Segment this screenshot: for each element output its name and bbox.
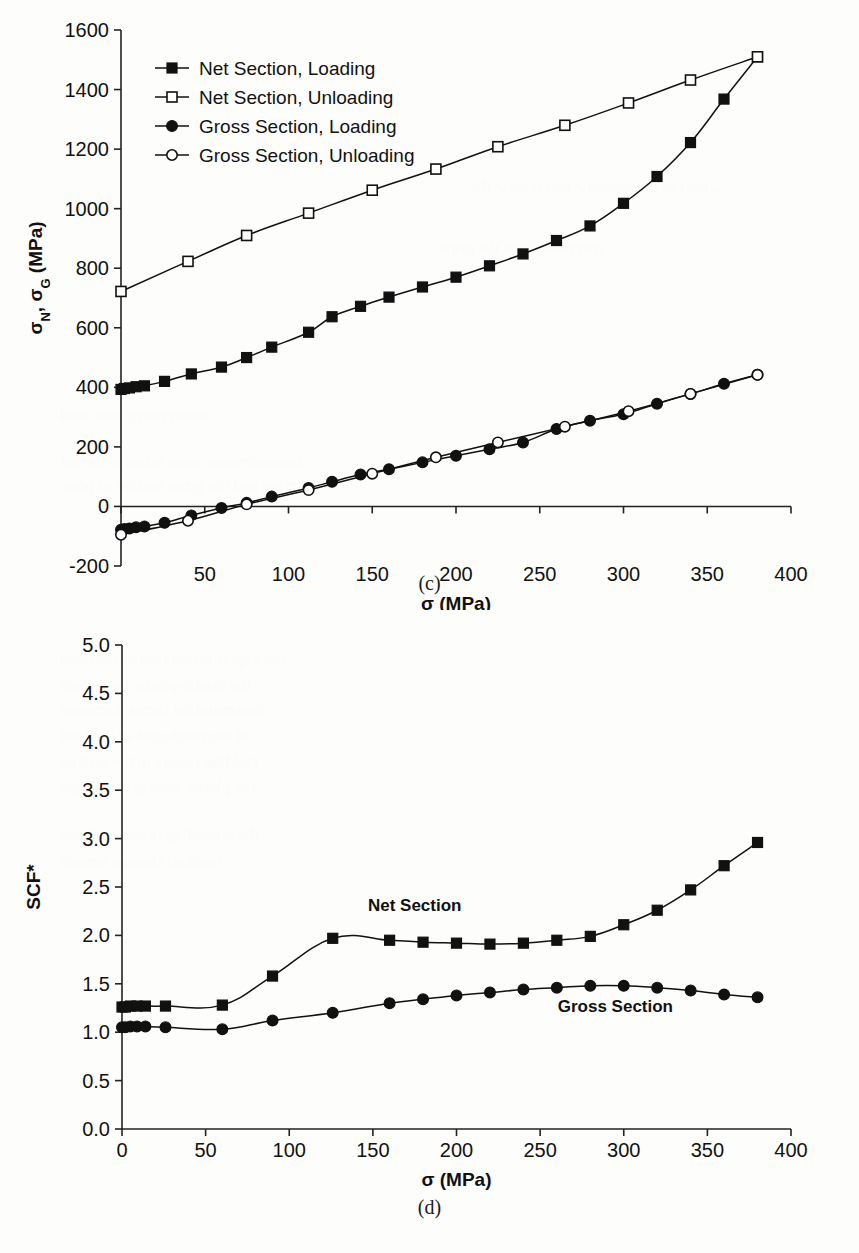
chart-d-data-point <box>160 1022 171 1033</box>
chart-c-data-point <box>303 485 313 495</box>
chart-c-data-point <box>685 389 695 399</box>
chart-c-data-point <box>752 370 762 380</box>
chart-c-data-point <box>518 437 529 448</box>
chart-c-data-point <box>160 376 170 386</box>
chart-c-y-tick-label: 0 <box>98 495 109 517</box>
chart-c-y-tick-label: 1200 <box>65 138 110 160</box>
chart-d-data-point <box>160 1001 170 1011</box>
chart-c-data-point <box>619 198 629 208</box>
chart-d-data-point <box>418 994 429 1005</box>
chart-c-data-point <box>384 292 394 302</box>
chart-d-data-point <box>451 990 462 1001</box>
chart-c-data-point <box>451 272 461 282</box>
chart-c-y-tick-label: 400 <box>76 376 109 398</box>
chart-d-data-point <box>719 989 730 1000</box>
chart-d-data-point <box>452 938 462 948</box>
chart-c-y-tick-label: 1600 <box>65 19 110 41</box>
figure-d-chart: 0.00.51.01.52.02.53.03.54.04.55.00501001… <box>0 600 859 1253</box>
chart-d-x-tick-label: 200 <box>440 1139 473 1161</box>
chart-d-y-axis-title: SCF* <box>23 864 44 910</box>
chart-d-annotations: Net SectionGross Section <box>368 896 673 1016</box>
chart-d-data-point <box>652 982 663 993</box>
chart-d-data-point <box>384 998 395 1009</box>
chart-d-data-point <box>686 885 696 895</box>
chart-c-data-point <box>304 208 314 218</box>
chart-d-y-tick-label: 5.0 <box>82 634 110 656</box>
figure-d-caption: (d) <box>0 1196 859 1219</box>
chart-d-x-axis-title: σ (MPa) <box>422 1169 492 1190</box>
chart-d-y-tick-label: 3.5 <box>82 779 110 801</box>
chart-c-data-point <box>367 468 377 478</box>
chart-d-x-tick-label: 300 <box>607 1139 640 1161</box>
chart-d-data-point <box>328 933 338 943</box>
chart-c-legend-marker <box>167 150 177 160</box>
chart-d-data-point <box>140 1021 151 1032</box>
chart-d-data-point <box>140 1001 150 1011</box>
chart-d-x-tick-label: 350 <box>691 1139 724 1161</box>
chart-d-data-point <box>685 985 696 996</box>
chart-d-y-tick-label: 2.5 <box>82 876 110 898</box>
chart-c-legend-label: Gross Section, Loading <box>199 116 397 137</box>
chart-c-legend-label: Net Section, Unloading <box>199 87 393 108</box>
chart-c-data-point <box>493 437 503 447</box>
chart-c-data-point <box>686 75 696 85</box>
figure-c-caption: (c) <box>0 572 859 595</box>
chart-d-data-point <box>618 980 629 991</box>
chart-c-y-tick-label: 600 <box>76 317 109 339</box>
chart-c-data-point <box>266 491 277 502</box>
chart-d-data-point <box>585 931 595 941</box>
chart-d-data-point <box>552 935 562 945</box>
chart-c-data-point <box>686 138 696 148</box>
chart-c-data-point <box>242 353 252 363</box>
chart-c-y-tick-label: 800 <box>76 257 109 279</box>
chart-c-y-tick-label: 1400 <box>65 79 110 101</box>
chart-c-data-point <box>753 52 763 62</box>
chart-c-y-axis-title: σN, σG (MPa) <box>25 221 53 334</box>
chart-d-y-tick-label: 3.0 <box>82 828 110 850</box>
chart-d-data-point <box>551 982 562 993</box>
chart-c-legend-marker <box>167 63 177 73</box>
chart-c-legend-marker <box>167 92 177 102</box>
chart-c-data-point <box>356 301 366 311</box>
chart-d-y-tick-label: 4.0 <box>82 731 110 753</box>
chart-d-data-point <box>418 937 428 947</box>
chart-c-data-point <box>116 286 126 296</box>
chart-c-data-point <box>217 362 227 372</box>
chart-d-data-point <box>518 938 528 948</box>
chart-d-x-tick-label: 400 <box>774 1139 807 1161</box>
chart-c-legend: Net Section, LoadingNet Section, Unloadi… <box>155 58 414 166</box>
chart-c-legend-label: Gross Section, Unloading <box>199 145 414 166</box>
chart-d-y-tick-label: 4.5 <box>82 682 110 704</box>
chart-c-data-point <box>518 249 528 259</box>
chart-c-axes: -200020040060080010001200140016005010015… <box>65 19 808 585</box>
chart-c-data-point <box>367 185 377 195</box>
chart-d-series-annotation: Net Section <box>368 896 462 915</box>
chart-c-data-point <box>139 381 149 391</box>
chart-c-data-point <box>623 406 633 416</box>
chart-d-x-tick-label: 100 <box>273 1139 306 1161</box>
chart-c-data-point <box>552 236 562 246</box>
chart-d-x-tick-label: 50 <box>195 1139 217 1161</box>
chart-d-y-tick-label: 1.5 <box>82 973 110 995</box>
chart-c-data-point <box>267 342 277 352</box>
chart-c-data-point <box>241 499 251 509</box>
chart-c-data-point <box>304 327 314 337</box>
chart-d-data-point <box>327 1007 338 1018</box>
chart-d-data-point <box>753 837 763 847</box>
chart-c-svg: -200020040060080010001200140016005010015… <box>0 0 859 610</box>
chart-d-data-point <box>485 987 496 998</box>
chart-d-data-point <box>485 939 495 949</box>
chart-d-data-point <box>619 920 629 930</box>
chart-c-data-point <box>493 142 503 152</box>
chart-c-data-point <box>719 94 729 104</box>
chart-d-data-point <box>217 1000 227 1010</box>
chart-c-data-point <box>560 120 570 130</box>
chart-c-axis-titles: σ (MPa)σN, σG (MPa) <box>25 221 491 610</box>
chart-c-data-point <box>560 421 570 431</box>
chart-d-y-tick-label: 2.0 <box>82 924 110 946</box>
chart-d-data-point <box>652 905 662 915</box>
chart-c-data-point <box>431 452 441 462</box>
chart-d-data-point <box>518 984 529 995</box>
chart-c-data-point <box>652 172 662 182</box>
chart-c-y-tick-label: 200 <box>76 436 109 458</box>
